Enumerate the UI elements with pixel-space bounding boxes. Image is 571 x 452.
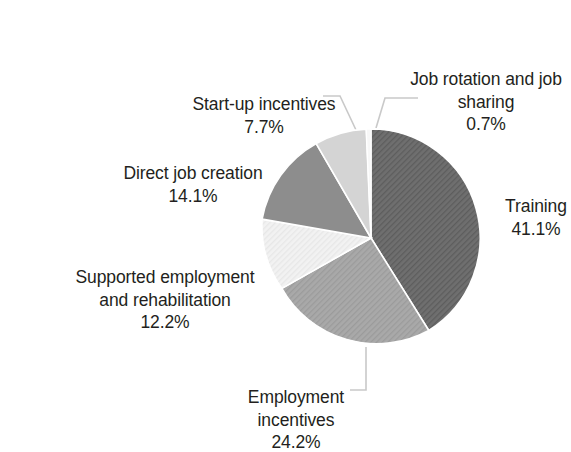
pie-label-supported-employment: Supported employment and rehabilitation … [58,244,272,356]
pie-label-job-rotation-text: Job rotation and job sharing [410,69,562,111]
pie-label-employment-incentives-text: Employment incentives [248,387,344,429]
pie-chart-figure: Job rotation and job sharing 0.7% Traini… [40,16,571,452]
pie-label-job-rotation-percent: 0.7% [388,113,571,135]
pie-label-job-rotation: Job rotation and job sharing 0.7% [388,46,571,158]
pie-label-training-text: Training [505,196,567,216]
pie-label-employment-incentives-percent: 24.2% [216,431,376,452]
pie-slices-group [262,129,480,344]
pie-label-training: Training 41.1% [484,173,571,263]
pie-label-startup-incentives-percent: 7.7% [168,116,360,138]
pie-label-supported-employment-percent: 12.2% [58,311,272,333]
pie-label-startup-incentives-text: Start-up incentives [192,94,335,114]
pie-label-direct-job-creation-text: Direct job creation [123,163,262,183]
pie-label-employment-incentives: Employment incentives 24.2% [216,364,376,452]
pie-label-training-percent: 41.1% [484,218,571,240]
pie-label-startup-incentives: Start-up incentives 7.7% [168,71,360,161]
pie-label-direct-job-creation-percent: 14.1% [102,185,284,207]
pie-label-supported-employment-text: Supported employment and rehabilitation [76,267,255,309]
